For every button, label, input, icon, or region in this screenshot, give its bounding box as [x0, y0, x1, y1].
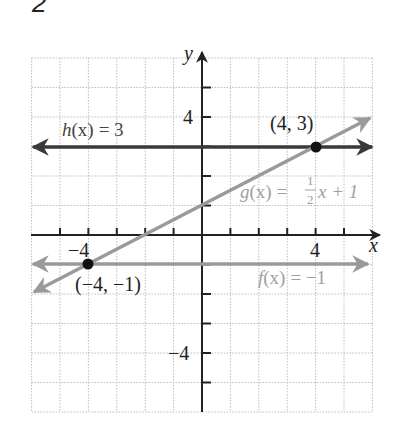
tick-label-y-neg4: −4	[168, 342, 189, 364]
tick-label-x-4: 4	[310, 239, 320, 261]
tick-label-x-neg4: −4	[68, 239, 89, 261]
label-point-4-3: (4, 3)	[270, 112, 313, 135]
label-f: f(x)= −1	[258, 267, 326, 289]
label-g-frac-den: 2	[307, 192, 314, 207]
label-g-rest: x + 1	[317, 181, 358, 202]
axes	[31, 52, 380, 412]
point-4-3	[311, 142, 322, 153]
tick-label-y-4: 4	[183, 106, 193, 128]
y-axis-label: y	[182, 42, 193, 65]
label-g-frac-num: 1	[307, 173, 314, 188]
x-axis-label: x	[368, 234, 378, 256]
label-point-neg4-neg1: (−4, −1)	[75, 273, 141, 296]
label-h: h(x)= 3	[62, 119, 124, 141]
coordinate-plane: y x 4 −4 4 −4 h(x)= 3 g(x)= 1 2 x + 1 f(…	[0, 0, 406, 436]
label-g: g(x)=	[240, 181, 287, 203]
